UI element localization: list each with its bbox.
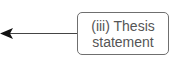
node-label-line2: statement [92, 34, 153, 50]
node-label-line1: (iii) Thesis [91, 18, 155, 34]
thesis-statement-node: (iii) Thesis statement [77, 12, 169, 55]
